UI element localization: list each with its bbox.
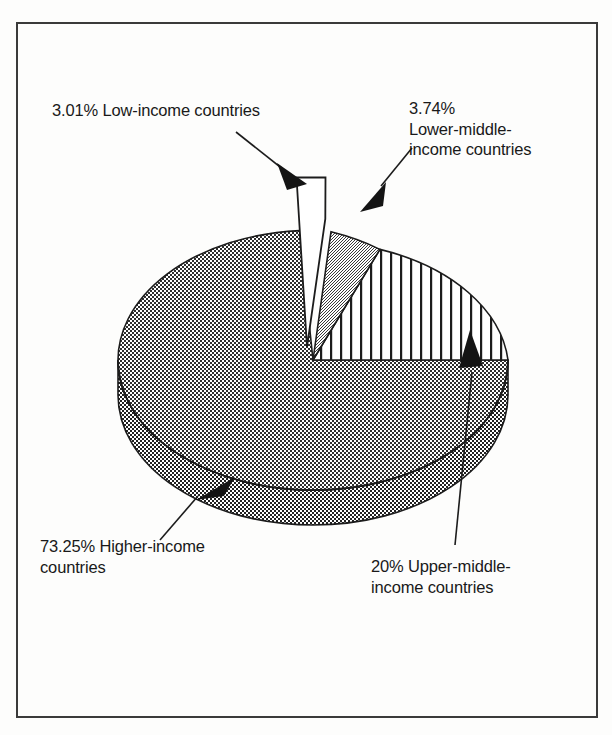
callout-arrow-low-income — [236, 132, 307, 190]
callout-label-low-income: 3.01% Low-income countries — [52, 100, 260, 121]
figure-canvas: 3.01% Low-income countries 3.74% Lower-m… — [0, 0, 612, 735]
callout-label-higher-income: 73.25% Higher-income countries — [40, 536, 205, 577]
callout-arrow-lower-middle-income — [360, 148, 412, 212]
callout-label-lower-middle-income: 3.74% Lower-middle- income countries — [409, 98, 531, 160]
callout-label-upper-middle-income: 20% Upper-middle- income countries — [371, 556, 511, 597]
